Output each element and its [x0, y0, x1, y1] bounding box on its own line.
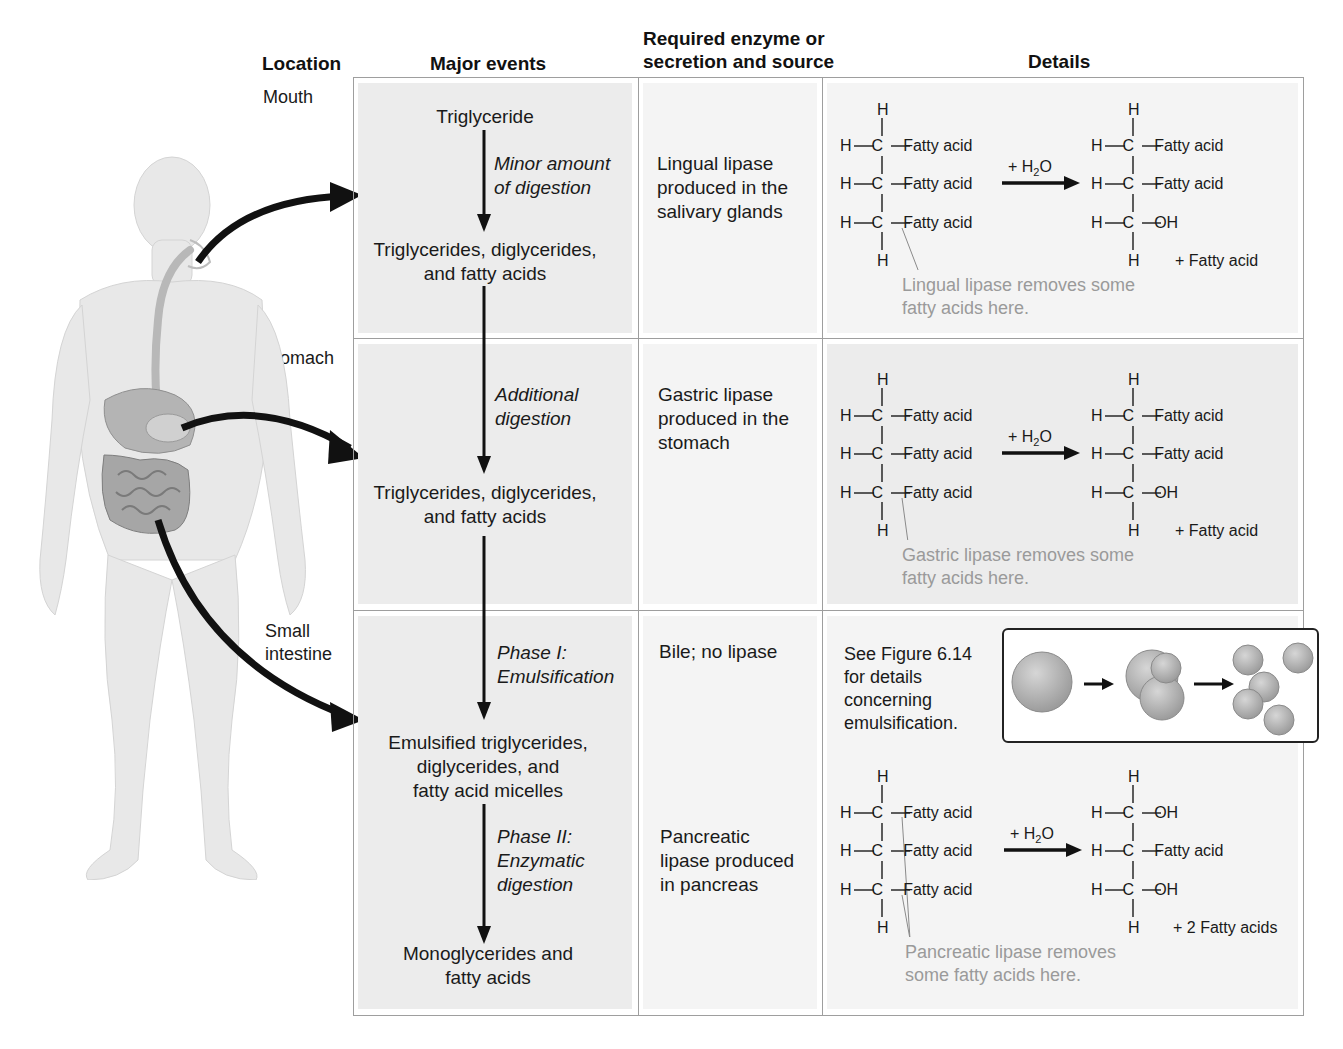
- events-flow-arrows: [470, 80, 500, 1020]
- lipase-note-stomach-line2: fatty acids here.: [902, 567, 1134, 590]
- reagent-water: + H2O: [1008, 427, 1052, 452]
- event-emulsified-line2: diglycerides, and: [358, 755, 618, 779]
- event-emulsified-products: Emulsified triglycerides, diglycerides, …: [358, 731, 618, 803]
- large-fat-droplet: [1012, 652, 1072, 712]
- chain-right-1: HCFatty acid: [1091, 136, 1223, 156]
- enzyme-lingual-line2: produced in the: [657, 176, 788, 200]
- small-droplet: [1283, 643, 1313, 673]
- chain-left-3: HCFatty acid: [840, 213, 972, 233]
- atom-h-bottom-right: H: [1128, 521, 1140, 541]
- header-enzyme-line1: Required enzyme or: [643, 27, 834, 50]
- chain-right-3: HCOH: [1091, 483, 1178, 503]
- emulsification-inset: [1002, 628, 1319, 743]
- human-body-illustration: [0, 80, 370, 880]
- event-phase1-line2: Emulsification: [497, 665, 614, 689]
- chain-left-3: HCFatty acid: [840, 880, 972, 900]
- arrow-head-2: [477, 456, 491, 474]
- chain-right-1: HCFatty acid: [1091, 406, 1223, 426]
- emulsification-reference: See Figure 6.14 for details concerning e…: [844, 643, 972, 735]
- lipase-note-stomach: Gastric lipase removes some fatty acids …: [902, 544, 1134, 590]
- event-emulsified-line1: Emulsified triglycerides,: [358, 731, 618, 755]
- column-divider-1: [638, 77, 639, 1016]
- event-phase2-line3: digestion: [497, 873, 585, 897]
- enzyme-bile: Bile; no lipase: [659, 640, 777, 664]
- atom-h-bottom-right: H: [1128, 918, 1140, 938]
- event-mouth-product-line1: Triglycerides, diglycerides,: [352, 238, 618, 262]
- emulsification-ref-line4: emulsification.: [844, 712, 972, 735]
- event-phase2-enzymatic: Phase II: Enzymatic digestion: [497, 825, 585, 897]
- chain-left-2: HCFatty acid: [840, 174, 972, 194]
- breaking-droplet-c: [1151, 653, 1181, 683]
- enzyme-gastric-line2: produced in the: [658, 407, 789, 431]
- reaction-arrow-head: [1064, 176, 1080, 190]
- lipase-pointer-line: [902, 228, 920, 270]
- event-final-products-line1: Monoglycerides and: [358, 942, 618, 966]
- emulsify-arrow-1: [1102, 678, 1114, 690]
- reagent-water: + H2O: [1010, 824, 1054, 849]
- event-final-products-line2: fatty acids: [358, 966, 618, 990]
- intestines: [102, 455, 190, 533]
- lipase-note-small-intestine-line2: some fatty acids here.: [905, 964, 1116, 987]
- chain-right-2: HCFatty acid: [1091, 174, 1223, 194]
- byproduct-fatty-acid: + Fatty acid: [1175, 521, 1258, 541]
- emulsification-droplets: [1004, 630, 1317, 741]
- atom-h-bottom: H: [877, 521, 889, 541]
- event-stomach-product-line2: and fatty acids: [352, 505, 618, 529]
- reaction-mouth: H HCFatty acid HCFatty acid HCFatty acid…: [840, 100, 1300, 330]
- event-phase1-emulsification: Phase I: Emulsification: [497, 641, 614, 689]
- enzyme-gastric-lipase: Gastric lipase produced in the stomach: [658, 383, 789, 455]
- reagent-water: + H2O: [1008, 157, 1052, 182]
- table-right-border: [1303, 77, 1304, 1016]
- event-emulsified-line3: fatty acid micelles: [358, 779, 618, 803]
- table-left-border: [353, 77, 354, 1016]
- reaction-arrow-head: [1064, 446, 1080, 460]
- chain-left-2: HCFatty acid: [840, 444, 972, 464]
- chain-right-2: HCFatty acid: [1091, 444, 1223, 464]
- enzyme-pancreatic-line1: Pancreatic: [660, 825, 794, 849]
- byproduct-2-fatty-acids: + 2 Fatty acids: [1173, 918, 1278, 938]
- event-minor-digestion-line1: Minor amount: [494, 152, 610, 176]
- event-stomach-product: Triglycerides, diglycerides, and fatty a…: [352, 481, 618, 529]
- emulsify-arrow-2: [1222, 678, 1234, 690]
- arrow-head-3: [477, 702, 491, 720]
- event-phase2-line2: Enzymatic: [497, 849, 585, 873]
- reaction-stomach: H HCFatty acid HCFatty acid HCFatty acid…: [840, 370, 1300, 600]
- panel-small-intestine-enzyme: [643, 616, 817, 1009]
- chain-left-1: HCFatty acid: [840, 803, 972, 823]
- enzyme-lingual-lipase: Lingual lipase produced in the salivary …: [657, 152, 788, 224]
- atom-h-top-right: H: [1128, 100, 1140, 120]
- lipase-note-mouth: Lingual lipase removes some fatty acids …: [902, 274, 1135, 320]
- atom-h-top: H: [877, 370, 889, 390]
- enzyme-lingual-line1: Lingual lipase: [657, 152, 788, 176]
- enzyme-pancreatic-lipase: Pancreatic lipase produced in pancreas: [660, 825, 794, 897]
- atom-h-bottom: H: [877, 918, 889, 938]
- event-triglyceride: Triglyceride: [358, 105, 612, 129]
- atom-h-bottom-right: H: [1128, 251, 1140, 271]
- event-mouth-product: Triglycerides, diglycerides, and fatty a…: [352, 238, 618, 286]
- reaction-arrow-head: [1066, 843, 1082, 857]
- reaction-small-intestine: H HCFatty acid HCFatty acid HCFatty acid…: [840, 767, 1300, 997]
- event-additional-digestion-line1: Additional: [495, 383, 578, 407]
- chain-left-1: HCFatty acid: [840, 406, 972, 426]
- emulsification-ref-line1: See Figure 6.14: [844, 643, 972, 666]
- lipase-pointer-line: [902, 498, 908, 540]
- table-top-border: [353, 77, 1303, 78]
- chain-left-1: HCFatty acid: [840, 136, 972, 156]
- chain-right-1: HCOH: [1091, 803, 1178, 823]
- small-droplet: [1264, 705, 1294, 735]
- small-droplet: [1233, 645, 1263, 675]
- atom-h-top-right: H: [1128, 370, 1140, 390]
- atom-h-top-right: H: [1128, 767, 1140, 787]
- lipase-note-small-intestine: Pancreatic lipase removes some fatty aci…: [905, 941, 1116, 987]
- event-phase1-line1: Phase I:: [497, 641, 614, 665]
- byproduct-fatty-acid: + Fatty acid: [1175, 251, 1258, 271]
- lipase-note-small-intestine-line1: Pancreatic lipase removes: [905, 941, 1116, 964]
- atom-h-top: H: [877, 767, 889, 787]
- header-details: Details: [1028, 50, 1090, 73]
- lipase-note-mouth-line1: Lingual lipase removes some: [902, 274, 1135, 297]
- event-minor-digestion-line2: of digestion: [494, 176, 610, 200]
- event-phase2-line1: Phase II:: [497, 825, 585, 849]
- header-enzyme-line2: secretion and source: [643, 50, 834, 73]
- enzyme-gastric-line3: stomach: [658, 431, 789, 455]
- atom-h-top: H: [877, 100, 889, 120]
